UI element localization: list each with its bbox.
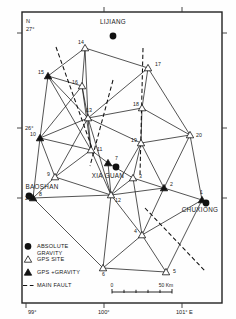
network-edge-14-15 — [48, 48, 85, 76]
site-label-16: 16 — [72, 79, 78, 85]
latitude-label-0: 27° — [26, 26, 34, 32]
gps-site-triangle-icon — [138, 104, 145, 110]
map-legend: ABSOLUTEGRAVITYGPS SITEGPS +GRAVITYMAIN … — [23, 243, 80, 288]
longitude-label-1: 100° — [98, 309, 110, 315]
legend-label-gps-site: GPS SITE — [37, 256, 64, 262]
absolute-gravity-dot-icon — [25, 243, 32, 250]
fault-se-long — [145, 208, 206, 272]
network-edge-13-10 — [40, 118, 88, 138]
latitude-label-2: 25° — [25, 195, 33, 201]
network-edge-11-9 — [55, 150, 91, 177]
site-16[interactable]: 16 — [72, 79, 86, 89]
site-label-3: 3 — [139, 173, 142, 179]
site-label-4: 4 — [134, 228, 137, 234]
network-edge-19-20 — [141, 135, 190, 143]
network-edge-10-11 — [40, 138, 91, 150]
site-label-20: 20 — [196, 132, 202, 138]
network-edge-9-12 — [55, 177, 111, 195]
site-label-14: 14 — [78, 39, 84, 45]
network-edge-15-10 — [40, 76, 48, 138]
site-14[interactable]: 14 — [78, 39, 89, 51]
network-edge-17-20 — [148, 68, 190, 135]
gps-gravity-triangle-icon — [160, 184, 167, 190]
network-edge-6-5 — [103, 268, 166, 272]
legend-label-absolute-gravity-2: GRAVITY — [37, 250, 63, 256]
site-label-19: 19 — [131, 137, 137, 143]
gps-gravity-triangle-icon — [104, 159, 111, 165]
network-edge-13-9 — [55, 118, 88, 177]
network-edge-2-1 — [164, 188, 202, 200]
city-label-chuxiong: CHUXIONG — [182, 206, 219, 213]
site-label-13: 13 — [86, 107, 92, 113]
longitude-label-2: 101° E — [176, 309, 193, 315]
gps-site-triangle-icon — [81, 44, 88, 50]
site-13[interactable]: 13 — [84, 107, 92, 121]
network-edge-14-16 — [82, 48, 85, 86]
fault-vertical-central — [140, 48, 143, 175]
city-label-baoshan: BAOSHAN — [25, 183, 58, 190]
site-label-2: 2 — [170, 181, 173, 187]
legend-item-gps-site: GPS SITE — [24, 256, 64, 262]
site-3[interactable]: 3 — [129, 173, 142, 181]
site-12[interactable]: 12 — [107, 191, 121, 203]
network-edge-12-6 — [103, 195, 111, 268]
site-label-8: 8 — [39, 191, 42, 197]
network-edge-8-12 — [33, 195, 111, 198]
legend-item-absolute-gravity: ABSOLUTEGRAVITY — [25, 243, 69, 256]
gps-gravity-triangle-icon — [24, 269, 31, 275]
site-label-15: 15 — [38, 69, 44, 75]
network-sites: 1234567891011121314151617181920 — [29, 39, 205, 277]
north-marker-label: N — [26, 18, 30, 24]
legend-label-main-fault: MAIN FAULT — [37, 282, 72, 288]
scalebar-end-label: 50 Km — [159, 282, 173, 288]
site-17[interactable]: 17 — [144, 61, 161, 71]
network-edge-2-4 — [142, 188, 164, 235]
site-label-7: 7 — [115, 155, 118, 161]
network-edge-4-6 — [103, 235, 142, 268]
map-figure: 1234567891011121314151617181920 LIJIANGX… — [0, 0, 236, 319]
city-label-lijiang: LIJIANG — [100, 18, 126, 25]
site-label-9: 9 — [47, 171, 50, 177]
site-label-5: 5 — [173, 268, 176, 274]
site-15[interactable]: 15 — [38, 69, 52, 79]
gps-site-triangle-icon — [24, 256, 31, 262]
scale-bar: 050 Km — [111, 282, 174, 294]
gps-site-triangle-icon — [138, 231, 145, 237]
gps-site-triangle-icon — [186, 131, 193, 137]
legend-item-gps-gravity: GPS +GRAVITY — [24, 269, 80, 275]
absolute-gravity-dot-icon — [110, 33, 117, 40]
network-edge-14-17 — [85, 48, 148, 68]
site-label-10: 10 — [30, 131, 36, 137]
legend-item-main-fault: MAIN FAULT — [23, 282, 72, 288]
gps-site-triangle-icon — [144, 64, 151, 70]
network-edge-18-13 — [88, 108, 142, 118]
fault-nw-1 — [56, 47, 92, 148]
scalebar-start-label: 0 — [111, 282, 114, 288]
network-edge-16-10 — [40, 86, 82, 138]
network-edge-17-18 — [142, 68, 148, 108]
site-label-6: 6 — [102, 271, 105, 277]
legend-label-absolute-gravity: ABSOLUTE — [37, 243, 69, 249]
gps-site-triangle-icon — [51, 173, 58, 179]
site-4[interactable]: 4 — [134, 228, 146, 238]
map-canvas: 1234567891011121314151617181920 LIJIANGX… — [0, 0, 236, 319]
site-label-1: 1 — [200, 189, 203, 195]
city-lijiang: LIJIANG — [100, 18, 126, 39]
site-label-17: 17 — [155, 61, 161, 67]
network-edge-19-2 — [141, 143, 164, 188]
latitude-label-1: 26° — [25, 125, 33, 131]
longitude-label-0: 99° — [28, 309, 36, 315]
network-edge-18-20 — [142, 108, 190, 135]
site-label-12: 12 — [115, 197, 121, 203]
site-label-18: 18 — [133, 101, 139, 107]
city-markers: LIJIANGXIA GUANBAOSHANCHUXIONG — [25, 18, 218, 213]
city-label-xia-guan: XIA GUAN — [92, 172, 125, 179]
absolute-gravity-dot-icon — [113, 164, 120, 171]
network-edge-20-2 — [164, 135, 190, 188]
legend-label-gps-gravity: GPS +GRAVITY — [37, 269, 80, 275]
site-label-11: 11 — [97, 146, 102, 152]
gps-site-triangle-icon — [129, 174, 136, 180]
network-edge-4-5 — [142, 235, 166, 272]
gps-gravity-triangle-icon — [44, 72, 51, 78]
network-edge-3-4 — [133, 178, 142, 235]
